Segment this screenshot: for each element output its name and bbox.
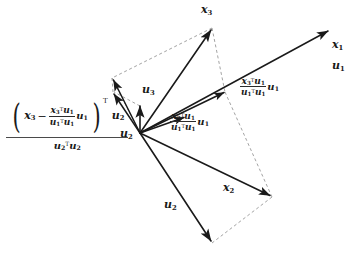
close-paren: ) (92, 96, 100, 136)
open-paren: ( (13, 96, 21, 136)
x1-u1-vector (140, 31, 328, 133)
residual-denominator: u2Tu2 (6, 137, 128, 151)
guide-x3-to-residual (112, 28, 212, 78)
residual-trailing-u2: u2 (120, 128, 133, 140)
label-u1: u1 (332, 60, 345, 72)
proj-x3-numerator: x3Tu1 (240, 76, 266, 86)
guide-x3-to-proj (212, 28, 225, 92)
residual-numerator: ( x3 − x3Tu1 u1Tu1 u1 ) T (6, 96, 128, 137)
label-u3: u3 (142, 84, 155, 96)
proj-x2-trailing-u1: u1 (197, 116, 209, 127)
label-x3: x3 (201, 4, 212, 16)
formula-proj-x3-on-u1: x3Tu1 u1Tu1 u1 (240, 76, 279, 98)
residual-inner-x3: x3 (24, 109, 35, 122)
proj-x3-trailing-u1: u1 (267, 81, 279, 92)
x2-vector (140, 133, 270, 196)
formula-residual-projection-on-u2: ( x3 − x3Tu1 u1Tu1 u1 ) T (6, 96, 128, 151)
label-u2: u2 (164, 199, 177, 211)
u2-vector (140, 133, 211, 241)
paren-transpose: T (103, 97, 108, 105)
minus-sign: − (36, 110, 49, 123)
label-x2: x2 (223, 182, 234, 194)
vector-diagram-canvas: x3 x1 u1 u3 x2 u2 x3Tu1 u1Tu1 u1 x2 (0, 0, 355, 253)
guide-x2tip-to-u2tip (212, 197, 272, 243)
residual-inner-trailing-u1: u1 (76, 110, 88, 121)
proj-x2-numerator: x2Tu1 (170, 111, 196, 121)
formula-proj-x2-on-u1: x2Tu1 u1Tu1 u1 (170, 111, 209, 133)
residual-dotted-with-u2: u2 (112, 109, 125, 122)
proj-x3-denominator: u1Tu1 (240, 86, 266, 97)
residual-inner-numerator: x3Tu1 (49, 105, 75, 115)
residual-inner-denominator: u1Tu1 (49, 116, 75, 127)
label-x1: x1 (332, 39, 343, 51)
proj-x2-denominator: u1Tu1 (170, 121, 196, 132)
